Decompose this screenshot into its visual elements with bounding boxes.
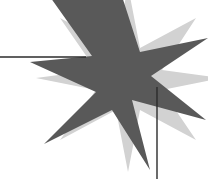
star-illustration: overlapping-stars-with-rules: [0, 0, 208, 179]
graphic-canvas: overlapping-stars-with-rules: [0, 0, 208, 179]
